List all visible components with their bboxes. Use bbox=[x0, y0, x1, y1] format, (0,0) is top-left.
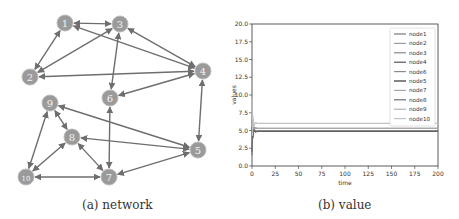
series-node5 bbox=[252, 127, 438, 133]
svg-text:6: 6 bbox=[107, 93, 113, 104]
node-4: 4 bbox=[195, 63, 211, 79]
svg-text:25: 25 bbox=[271, 170, 279, 177]
node-9: 9 bbox=[42, 95, 58, 111]
svg-text:5: 5 bbox=[195, 145, 201, 156]
node-3: 3 bbox=[112, 16, 128, 32]
caption-network: (a) network bbox=[82, 198, 153, 212]
legend-node7: node7 bbox=[409, 87, 427, 93]
svg-text:2: 2 bbox=[27, 72, 33, 83]
legend-node1: node1 bbox=[409, 31, 427, 37]
svg-text:125: 125 bbox=[363, 170, 375, 177]
svg-text:4: 4 bbox=[200, 66, 206, 77]
edge-1-2 bbox=[35, 31, 60, 70]
edge-8-10 bbox=[33, 143, 65, 171]
legend-node2: node2 bbox=[409, 40, 427, 46]
legend-node5: node5 bbox=[409, 78, 427, 84]
edge-8-7 bbox=[78, 144, 103, 171]
edge-4-5 bbox=[199, 80, 203, 141]
svg-text:20.0: 20.0 bbox=[235, 20, 249, 27]
edge-3-6 bbox=[111, 33, 119, 89]
network-diagram: 13246985107 bbox=[0, 0, 230, 219]
svg-text:1: 1 bbox=[62, 18, 68, 29]
svg-text:17.5: 17.5 bbox=[235, 38, 249, 45]
node-8: 8 bbox=[64, 129, 80, 145]
legend-node10: node10 bbox=[409, 116, 431, 122]
svg-text:150: 150 bbox=[386, 170, 398, 177]
edge-1-3 bbox=[74, 23, 111, 24]
legend-node6: node6 bbox=[409, 69, 427, 75]
svg-text:7: 7 bbox=[106, 172, 112, 183]
svg-text:0: 0 bbox=[250, 170, 254, 177]
svg-text:12.5: 12.5 bbox=[235, 73, 249, 80]
svg-text:175: 175 bbox=[409, 170, 421, 177]
node-1: 1 bbox=[57, 15, 73, 31]
legend-node8: node8 bbox=[409, 97, 427, 103]
caption-value: (b) value bbox=[318, 198, 371, 212]
svg-text:10: 10 bbox=[22, 175, 31, 183]
svg-text:100: 100 bbox=[339, 170, 351, 177]
edge-7-5 bbox=[118, 153, 190, 175]
edge-4-6 bbox=[119, 74, 195, 96]
node-6: 6 bbox=[102, 90, 118, 106]
value-chart: 0.02.55.07.510.012.515.017.520.002550751… bbox=[230, 0, 459, 219]
edge-3-2 bbox=[38, 29, 112, 73]
svg-text:9: 9 bbox=[47, 98, 53, 109]
svg-text:3: 3 bbox=[117, 19, 123, 30]
node-7: 7 bbox=[101, 169, 117, 185]
svg-text:75: 75 bbox=[318, 170, 326, 177]
edge-2-4 bbox=[39, 71, 194, 76]
svg-text:0.0: 0.0 bbox=[238, 162, 248, 169]
legend-node4: node4 bbox=[409, 59, 427, 65]
legend-node3: node3 bbox=[409, 50, 427, 56]
svg-text:8: 8 bbox=[69, 132, 75, 143]
node-10: 10 bbox=[18, 169, 34, 185]
node-2: 2 bbox=[22, 69, 38, 85]
chart-legend: node1node2node3node4node6node5node7node8… bbox=[390, 28, 435, 126]
edge-9-8 bbox=[55, 111, 67, 130]
svg-text:5.0: 5.0 bbox=[238, 127, 248, 134]
svg-text:15.0: 15.0 bbox=[235, 56, 249, 63]
svg-text:50: 50 bbox=[295, 170, 303, 177]
node-5: 5 bbox=[190, 142, 206, 158]
svg-text:200: 200 bbox=[432, 170, 444, 177]
x-axis-label: time bbox=[338, 179, 352, 186]
y-axis-label: values bbox=[230, 85, 237, 105]
edge-6-7 bbox=[109, 107, 110, 168]
edge-9-10 bbox=[29, 112, 47, 169]
svg-text:7.5: 7.5 bbox=[238, 109, 248, 116]
svg-text:2.5: 2.5 bbox=[238, 144, 248, 151]
edge-8-5 bbox=[81, 138, 189, 149]
edge-3-4 bbox=[128, 28, 195, 66]
legend-node9: node9 bbox=[409, 106, 427, 112]
